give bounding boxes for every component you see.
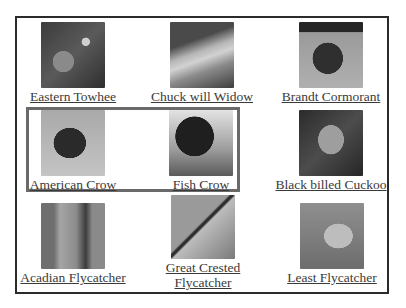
gallery-item-chuck-will-widow[interactable]: Chuck will Widow (146, 22, 258, 104)
black-billed-cuckoo-thumbnail[interactable] (299, 110, 363, 176)
gallery-item-brandt-cormorant[interactable]: Brandt Cormorant (276, 22, 386, 104)
gallery-item-label[interactable]: Acadian Flycatcher (18, 270, 128, 285)
gallery-item-black-billed-cuckoo[interactable]: Black billed Cuckoo (272, 110, 390, 192)
eastern-towhee-thumbnail[interactable] (41, 22, 105, 88)
gallery-item-fish-crow[interactable]: Fish Crow (162, 110, 240, 192)
gallery-item-american-crow[interactable]: American Crow (26, 110, 120, 192)
gallery-item-label[interactable]: American Crow (26, 177, 120, 192)
gallery-item-least-flycatcher[interactable]: Least Flycatcher (282, 203, 382, 285)
gallery-item-acadian-flycatcher[interactable]: Acadian Flycatcher (18, 203, 128, 285)
gallery-item-eastern-towhee[interactable]: Eastern Towhee (20, 22, 126, 104)
gallery-item-label[interactable]: Least Flycatcher (282, 270, 382, 285)
brandt-cormorant-thumbnail[interactable] (299, 22, 363, 88)
great-crested-flycatcher-thumbnail[interactable] (171, 195, 235, 259)
acadian-flycatcher-thumbnail[interactable] (41, 203, 105, 269)
gallery-item-label[interactable]: Chuck will Widow (146, 89, 258, 104)
gallery-item-label[interactable]: Brandt Cormorant (276, 89, 386, 104)
american-crow-thumbnail[interactable] (41, 110, 105, 176)
gallery-item-label[interactable]: Black billed Cuckoo (272, 177, 390, 192)
gallery-item-great-crested-flycatcher[interactable]: Great Crested Flycatcher (160, 195, 246, 290)
gallery-item-label[interactable]: Great Crested Flycatcher (160, 260, 246, 290)
least-flycatcher-thumbnail[interactable] (300, 203, 364, 269)
gallery-item-label[interactable]: Fish Crow (162, 177, 240, 192)
gallery-item-label[interactable]: Eastern Towhee (20, 89, 126, 104)
fish-crow-thumbnail[interactable] (169, 110, 233, 176)
chuck-will-widow-thumbnail[interactable] (170, 22, 234, 88)
